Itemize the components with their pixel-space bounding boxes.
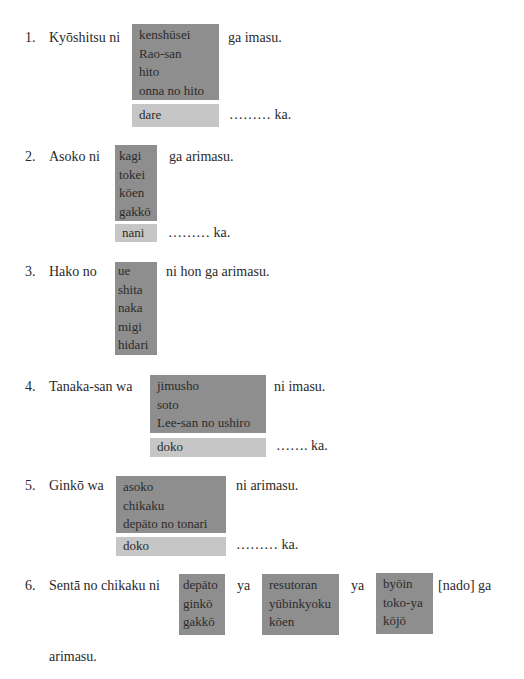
- option: kenshūsei: [139, 26, 219, 45]
- sentence-tail: ga arimasu.: [169, 149, 234, 165]
- sentence-lead: Asoko ni: [49, 149, 100, 165]
- option: hidari: [118, 336, 157, 355]
- exercise-number: 1.: [25, 30, 36, 46]
- option: ue: [118, 262, 157, 281]
- substitution-box: jimusho soto Lee-san no ushiro: [150, 375, 266, 433]
- question-tail: ……… ka.: [236, 537, 298, 553]
- option: toko-ya: [383, 594, 433, 613]
- option: kagi: [119, 147, 157, 166]
- option: kōen: [269, 613, 339, 632]
- exercise-number: 5.: [25, 478, 36, 494]
- sentence-tail: ni arimasu.: [236, 478, 298, 494]
- question-tail: ……. ka.: [276, 438, 328, 454]
- option: depāto no tonari: [123, 515, 226, 534]
- sentence-tail: ni hon ga arimasu.: [166, 264, 269, 280]
- substitution-box: asoko chikaku depāto no tonari: [116, 476, 226, 533]
- sentence-lead: Hako no: [49, 264, 97, 280]
- option: Lee-san no ushiro: [157, 414, 266, 433]
- connector: ya: [351, 578, 364, 594]
- question-word-box: dare: [132, 104, 219, 127]
- exercise-number: 3.: [25, 264, 36, 280]
- sentence-tail: ga imasu.: [228, 30, 282, 46]
- substitution-box: byōin toko-ya kōjō: [376, 573, 433, 634]
- option: asoko: [123, 478, 226, 497]
- question-word-box: doko: [116, 537, 226, 556]
- sentence-lead: Kyōshitsu ni: [49, 30, 120, 46]
- substitution-box: kenshūsei Rao-san hito onna no hito: [132, 24, 219, 100]
- option: chikaku: [123, 497, 226, 516]
- option: hito: [139, 63, 219, 82]
- option: soto: [157, 396, 266, 415]
- exercise-number: 6.: [25, 578, 36, 594]
- option: jimusho: [157, 377, 266, 396]
- question-word: doko: [157, 438, 266, 456]
- connector: ya: [237, 578, 250, 594]
- question-word: dare: [139, 106, 219, 124]
- option: shita: [118, 281, 157, 300]
- exercise-number: 2.: [25, 149, 36, 165]
- sentence-tail: ni imasu.: [274, 379, 325, 395]
- sentence-continuation: arimasu.: [49, 649, 97, 665]
- sentence-tail: [nado] ga: [438, 578, 491, 594]
- option: ginkō: [183, 595, 225, 614]
- question-word: nani: [122, 224, 157, 242]
- option: depāto: [183, 576, 225, 595]
- option: tokei: [119, 166, 157, 185]
- exercise-number: 4.: [25, 379, 36, 395]
- question-word: doko: [123, 537, 226, 555]
- question-tail: ……… ka.: [168, 225, 230, 241]
- option: gakkō: [183, 613, 225, 632]
- option: gakkō: [119, 203, 157, 222]
- option: onna no hito: [139, 82, 219, 101]
- option: Rao-san: [139, 45, 219, 64]
- substitution-box: ue shita naka migi hidari: [115, 262, 157, 355]
- question-tail: ……… ka.: [229, 107, 291, 123]
- option: migi: [118, 318, 157, 337]
- option: kōjō: [383, 612, 433, 631]
- option: yūbinkyoku: [269, 595, 339, 614]
- substitution-box: depāto ginkō gakkō: [179, 574, 225, 635]
- substitution-box: kagi tokei kōen gakkō: [115, 145, 157, 221]
- sentence-lead: Ginkō wa: [49, 478, 104, 494]
- option: resutoran: [269, 576, 339, 595]
- question-word-box: nani: [115, 224, 157, 242]
- option: naka: [118, 299, 157, 318]
- question-word-box: doko: [150, 438, 266, 457]
- substitution-box: resutoran yūbinkyoku kōen: [262, 574, 339, 635]
- sentence-lead: Sentā no chikaku ni: [49, 578, 160, 594]
- option: byōin: [383, 575, 433, 594]
- option: kōen: [119, 184, 157, 203]
- sentence-lead: Tanaka-san wa: [49, 379, 132, 395]
